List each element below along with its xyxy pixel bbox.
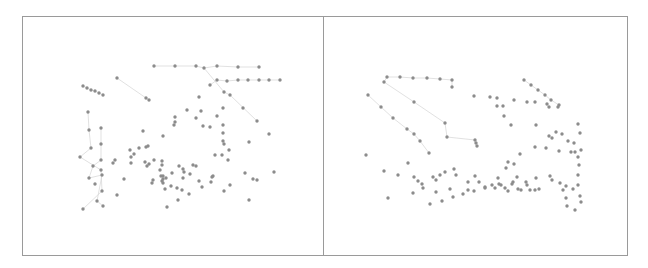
graph-edge <box>89 130 91 148</box>
graph-node <box>571 187 574 190</box>
graph-node <box>569 150 572 153</box>
graph-node <box>454 173 457 176</box>
graph-node <box>564 196 567 199</box>
graph-node <box>236 65 239 68</box>
graph-node <box>228 93 231 96</box>
graph-edge <box>117 78 146 98</box>
right-panel-nodes <box>364 75 582 211</box>
graph-node <box>452 167 455 170</box>
graph-node <box>220 153 223 156</box>
graph-node <box>78 155 81 158</box>
graph-node <box>191 163 194 166</box>
graph-node <box>115 76 118 79</box>
graph-node <box>185 108 188 111</box>
graph-node <box>564 184 567 187</box>
graph-node <box>443 121 446 124</box>
graph-node <box>85 86 88 89</box>
graph-node <box>561 188 564 191</box>
graph-node <box>418 139 421 142</box>
graph-node <box>382 169 385 172</box>
graph-node <box>211 174 214 177</box>
graph-node <box>528 188 531 191</box>
graph-node <box>495 96 498 99</box>
graph-node <box>202 66 205 69</box>
graph-node <box>101 204 104 207</box>
graph-node <box>549 98 552 101</box>
graph-edge <box>368 95 381 107</box>
graph-node <box>99 126 102 129</box>
graph-node <box>411 76 414 79</box>
graph-node <box>537 187 540 190</box>
graph-node <box>533 188 536 191</box>
graph-node <box>385 75 388 78</box>
graph-node <box>115 193 118 196</box>
graph-node <box>111 161 114 164</box>
graph-node <box>221 131 224 134</box>
graph-node <box>228 183 231 186</box>
graph-node <box>516 187 519 190</box>
graph-node <box>141 129 144 132</box>
graph-node <box>472 94 475 97</box>
graph-node <box>226 158 229 161</box>
graph-node <box>86 110 89 113</box>
graph-node <box>438 77 441 80</box>
graph-node <box>180 188 183 191</box>
graph-node <box>382 80 385 83</box>
graph-node <box>99 142 102 145</box>
graph-node <box>236 78 239 81</box>
graph-node <box>366 93 369 96</box>
graph-node <box>215 114 218 117</box>
graph-node <box>81 207 84 210</box>
graph-node <box>194 116 197 119</box>
graph-node <box>509 123 512 126</box>
graph-node <box>172 123 175 126</box>
graph-node <box>91 164 94 167</box>
graph-node <box>450 85 453 88</box>
graph-node <box>518 152 521 155</box>
graph-node <box>99 158 102 161</box>
graph-node <box>466 180 469 183</box>
graph-node <box>579 148 582 151</box>
graph-node <box>504 166 507 169</box>
graph-node <box>255 178 258 181</box>
graph-node <box>182 170 185 173</box>
graph-node <box>129 161 132 164</box>
graph-node <box>548 174 551 177</box>
graph-node <box>113 158 116 161</box>
graph-node <box>93 182 96 185</box>
left-panel-frame <box>23 17 324 256</box>
graph-edge <box>384 82 414 102</box>
graph-node <box>147 98 150 101</box>
graph-node <box>543 93 546 96</box>
graph-node <box>412 132 415 135</box>
graph-edge <box>89 166 93 178</box>
graph-edge <box>217 66 238 67</box>
graph-node <box>175 186 178 189</box>
graph-node <box>406 161 409 164</box>
graph-node <box>579 200 582 203</box>
graph-node <box>143 160 146 163</box>
graph-edge <box>381 107 393 118</box>
graph-node <box>475 144 478 147</box>
graph-node <box>128 148 131 151</box>
right-panel-edges <box>368 77 559 153</box>
graph-node <box>445 135 448 138</box>
graph-node <box>169 184 172 187</box>
graph-edge <box>427 78 440 79</box>
graph-node <box>411 191 414 194</box>
graph-node <box>493 186 496 189</box>
graph-node <box>158 168 161 171</box>
graph-node <box>137 146 140 149</box>
graph-node <box>477 180 480 183</box>
graph-node <box>194 164 197 167</box>
graph-node <box>197 95 200 98</box>
graph-node <box>450 78 453 81</box>
graph-node <box>416 179 419 182</box>
graph-node <box>533 100 536 103</box>
graph-node <box>515 175 518 178</box>
graph-node <box>525 183 528 186</box>
graph-node <box>247 198 250 201</box>
graph-node <box>534 123 537 126</box>
graph-node <box>544 146 547 149</box>
graph-node <box>501 104 504 107</box>
